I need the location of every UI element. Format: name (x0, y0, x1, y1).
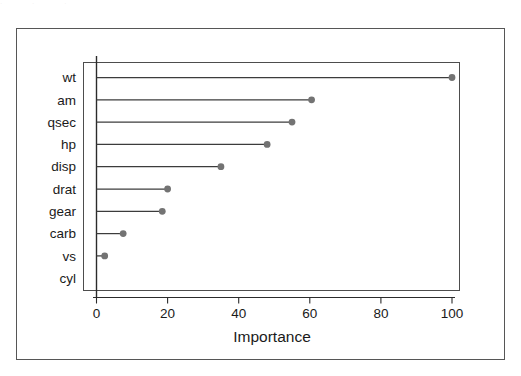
x-axis-tick-label-80: 80 (373, 306, 388, 321)
category-label-hp: hp (61, 137, 76, 152)
data-point-wt (449, 74, 456, 81)
data-point-drat (164, 186, 171, 193)
data-point-disp (218, 163, 225, 170)
data-point-hp (264, 141, 271, 148)
importance-dotchart: 020406080100 wtamqsechpdispdratgearcarbv… (0, 0, 521, 376)
category-label-am: am (57, 93, 76, 108)
category-label-drat: drat (53, 182, 77, 197)
x-axis-ticks-group: 020406080100 (93, 298, 464, 322)
category-label-carb: carb (50, 226, 76, 241)
data-point-vs (101, 253, 108, 260)
category-labels-group: wtamqsechpdispdratgearcarbvscyl (47, 70, 76, 286)
x-axis-title: Importance (233, 328, 311, 345)
stems-group (97, 78, 453, 256)
x-axis-tick-label-40: 40 (231, 306, 246, 321)
category-label-vs: vs (63, 249, 77, 264)
x-axis-tick-label-0: 0 (93, 306, 101, 321)
data-point-carb (120, 230, 127, 237)
x-axis-tick-label-20: 20 (160, 306, 175, 321)
category-label-cyl: cyl (60, 271, 77, 286)
x-axis-tick-label-100: 100 (441, 306, 464, 321)
plot-panel-box (84, 63, 460, 291)
category-label-disp: disp (51, 159, 76, 174)
data-point-am (308, 96, 315, 103)
data-point-gear (159, 208, 166, 215)
x-axis-tick-label-60: 60 (302, 306, 317, 321)
category-label-qsec: qsec (47, 115, 76, 130)
category-label-wt: wt (62, 70, 77, 85)
category-label-gear: gear (49, 204, 77, 219)
data-point-qsec (289, 119, 296, 126)
